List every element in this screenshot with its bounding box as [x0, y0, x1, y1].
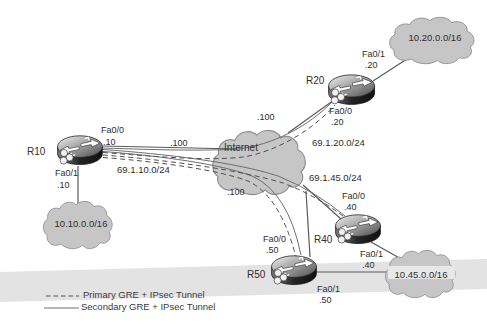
- router-r10-icon: [58, 136, 103, 165]
- router-r20-name: R20: [306, 75, 324, 86]
- r10-lan-interface-label: Fa0/1: [55, 169, 78, 179]
- wan-network-r10: 69.1.10.0/24: [117, 165, 170, 175]
- internet-ip-r20-link: .100: [257, 113, 275, 123]
- r20-lan-interface-label: Fa0/1: [362, 50, 385, 60]
- lan-cloud-r20-label: 10.20.0.0/16: [409, 33, 462, 43]
- r50-wan-interface-label: Fa0/0: [263, 235, 286, 245]
- r20-wan-ip-label: .20: [331, 118, 344, 128]
- internet-ip-r10-link: .100: [170, 139, 188, 149]
- r10-wan-interface-label: Fa0/0: [101, 126, 124, 136]
- link-r20-internet: [288, 100, 334, 133]
- legend-secondary-label: Secondary GRE + IPsec Tunnel: [81, 302, 215, 312]
- r40-lan-interface-label: Fa0/1: [360, 250, 383, 260]
- r40-wan-ip-label: .40: [344, 203, 357, 213]
- r40-wan-interface-label: Fa0/0: [342, 192, 365, 202]
- r10-wan-ip-label: .10: [103, 138, 116, 148]
- network-diagram: R10 Fa0/0 .10 .100 69.1.10.0/24 Fa0/1 .1…: [0, 0, 487, 324]
- router-r50-icon: [272, 256, 317, 285]
- router-r50-name: R50: [247, 269, 265, 280]
- r50-lan-interface-label: Fa0/1: [317, 285, 340, 295]
- link-r50-internet: [306, 191, 310, 257]
- wan-network-r20: 69.1.20.0/24: [312, 138, 365, 148]
- lan-cloud-r10-label: 10.10.0.0/16: [55, 219, 108, 229]
- router-r20-icon: [329, 75, 375, 105]
- router-r40-icon: [336, 215, 381, 244]
- r50-lan-ip-label: .50: [319, 296, 332, 306]
- router-r10-name: R10: [27, 146, 45, 157]
- r50-wan-ip-label: .50: [266, 246, 279, 256]
- r40-lan-ip-label: .40: [362, 261, 375, 271]
- r10-lan-ip-label: .10: [57, 181, 70, 191]
- legend-primary-label: Primary GRE + IPsec Tunnel: [83, 290, 205, 300]
- wan-network-shared: 69.1.45.0/24: [309, 173, 362, 183]
- router-r40-name: R40: [314, 234, 332, 245]
- lan-cloud-shared-label: 10.45.0.0/16: [395, 270, 448, 280]
- internet-cloud: [213, 131, 305, 195]
- r20-wan-interface-label: Fa0/0: [329, 107, 352, 117]
- r20-lan-ip-label: .20: [365, 61, 378, 71]
- internet-label: Internet: [224, 142, 258, 153]
- internet-ip-shared-link: .100: [227, 188, 245, 198]
